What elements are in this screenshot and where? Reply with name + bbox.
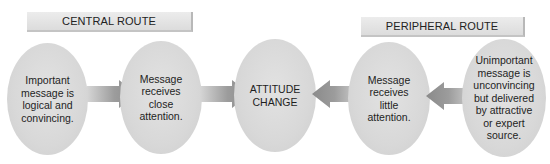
node-text: Message receives little attention. <box>367 74 410 124</box>
node-central-start: Important message is logical and convinc… <box>7 43 88 155</box>
peripheral-route-label: PERIPHERAL ROUTE <box>361 17 525 37</box>
node-central-attention: Message receives close attention. <box>120 41 202 154</box>
node-text: Unimportant message is unconvincing but … <box>473 54 534 142</box>
node-attitude-change: ATTITUDE CHANGE <box>234 39 316 152</box>
node-text: ATTITUDE CHANGE <box>250 83 301 108</box>
node-peripheral-start: Unimportant message is unconvincing but … <box>462 39 546 157</box>
node-peripheral-attention: Message receives little attention. <box>348 42 430 155</box>
node-text: Important message is logical and convinc… <box>21 74 74 124</box>
node-text: Message receives close attention. <box>139 73 182 123</box>
central-route-label: CENTRAL ROUTE <box>27 12 193 32</box>
